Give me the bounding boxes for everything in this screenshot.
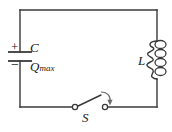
inductor-turn-3	[155, 59, 166, 67]
inductor-turn-2	[155, 50, 166, 58]
inductor-turn-4	[155, 68, 166, 76]
lc-circuit-figure: + − C Qmax L S	[0, 0, 172, 132]
switch-terminal-left[interactable]	[72, 104, 77, 109]
inductor-label: L	[138, 54, 145, 67]
switch-terminal-right[interactable]	[102, 104, 107, 109]
switch-closing-arrowhead	[107, 100, 112, 106]
switch-assembly[interactable]	[72, 92, 112, 110]
switch-blade[interactable]	[76, 95, 101, 107]
charge-subscript: max	[39, 63, 54, 73]
capacitor-label: C	[30, 41, 39, 54]
charge-symbol: Q	[30, 59, 39, 74]
capacitor-charge-label: Qmax	[30, 60, 54, 73]
capacitor-minus-sign: −	[11, 58, 19, 72]
capacitor-plus-sign: +	[11, 40, 18, 53]
switch-label: S	[82, 111, 89, 124]
inductor-coil	[147, 40, 166, 80]
